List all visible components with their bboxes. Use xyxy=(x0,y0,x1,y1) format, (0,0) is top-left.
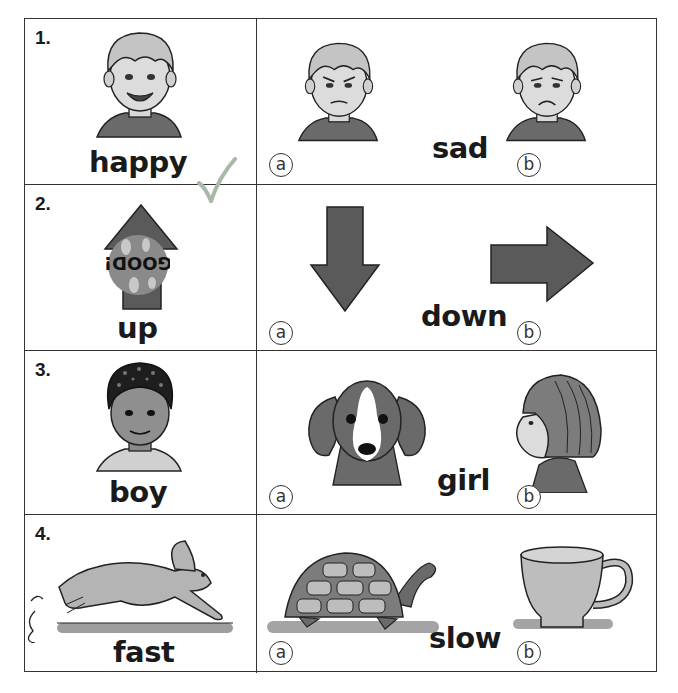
choices-cell-4: a slow b xyxy=(257,515,656,673)
svg-text:GOOD!: GOOD! xyxy=(106,253,170,274)
choice-b[interactable]: b xyxy=(517,321,541,345)
row-2: 2. GOOD! up a down b xyxy=(25,185,656,351)
word-cell-4: 4. fast xyxy=(25,515,257,673)
choice-a[interactable]: a xyxy=(269,153,293,177)
target-word: boy xyxy=(109,475,167,509)
target-word: up xyxy=(117,311,157,345)
angry-boy-face-icon[interactable] xyxy=(297,31,381,151)
opposite-word: slow xyxy=(429,621,501,655)
choice-a[interactable]: a xyxy=(269,485,293,509)
row-1: 1. happy xyxy=(25,19,656,185)
choice-b[interactable]: b xyxy=(517,485,541,509)
item-number: 3. xyxy=(35,359,51,381)
choice-a[interactable]: a xyxy=(269,321,293,345)
item-number: 2. xyxy=(35,193,51,215)
opposite-word: girl xyxy=(437,463,490,497)
happy-boy-face-icon xyxy=(95,25,185,143)
opposite-word: down xyxy=(421,299,507,333)
turtle-icon[interactable] xyxy=(265,537,443,637)
puppy-face-icon[interactable] xyxy=(305,375,429,487)
boy-face-icon xyxy=(95,359,185,475)
girl-profile-icon[interactable] xyxy=(505,369,603,493)
down-arrow-icon[interactable] xyxy=(309,205,381,315)
running-rabbit-icon xyxy=(25,531,257,643)
choice-b[interactable]: b xyxy=(517,641,541,665)
choice-a[interactable]: a xyxy=(269,641,293,665)
choices-cell-3: a girl b xyxy=(257,351,656,514)
row-3: 3. boy xyxy=(25,351,656,515)
word-cell-3: 3. boy xyxy=(25,351,257,514)
word-cell-1: 1. happy xyxy=(25,19,257,184)
target-word: happy xyxy=(89,145,187,179)
target-word: fast xyxy=(113,635,174,669)
choices-cell-1: a sad b xyxy=(257,19,656,184)
row-4: 4. fast xyxy=(25,515,656,673)
item-number: 1. xyxy=(35,27,51,49)
worksheet-table: 1. happy xyxy=(24,18,657,672)
sad-boy-face-icon[interactable] xyxy=(505,31,589,151)
teacup-icon[interactable] xyxy=(511,543,635,635)
opposite-word: sad xyxy=(432,131,488,165)
choices-cell-2: a down b xyxy=(257,185,656,350)
word-cell-2: 2. GOOD! up xyxy=(25,185,257,350)
good-sticker-icon: GOOD! xyxy=(106,233,170,297)
choice-b[interactable]: b xyxy=(517,153,541,177)
right-arrow-icon[interactable] xyxy=(489,225,595,303)
